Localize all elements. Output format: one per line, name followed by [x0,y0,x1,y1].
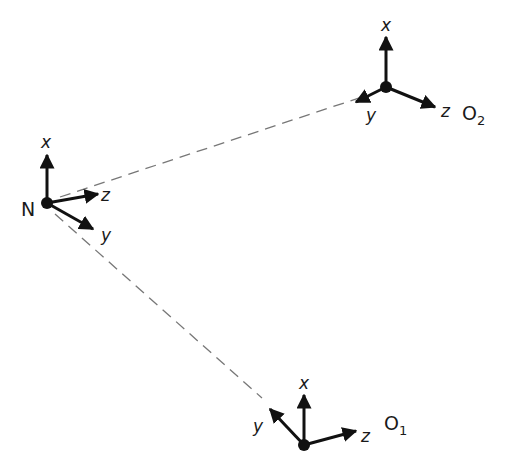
frame-n: x z y N [21,132,112,245]
o2-y-label: y [365,105,377,125]
o2-z-label: z [440,101,451,121]
dashed-line-n-to-o1 [55,214,262,398]
dashed-line-n-to-o2 [60,97,362,197]
n-y-label: y [100,225,112,245]
o1-origin-dot [298,439,310,451]
diagram-svg: x z y N x z y O2 x z y O1 [0,0,506,468]
o1-y-axis-arrow [270,409,304,445]
n-z-label: z [100,185,111,205]
o1-x-label: x [298,373,310,393]
frame-o2: x z y O2 [356,15,485,128]
n-y-axis-arrow [47,203,93,229]
n-origin-dot [41,197,53,209]
o1-y-label: y [252,416,264,436]
o2-origin-dot [380,81,392,93]
o2-x-label: x [380,15,392,35]
o2-frame-label: O2 [462,102,485,128]
n-z-axis-arrow [47,194,98,203]
o1-z-label: z [360,426,371,446]
n-frame-label: N [21,198,35,220]
n-x-label: x [40,132,52,152]
o2-z-axis-arrow [386,87,435,107]
frame-o1: x z y O1 [252,373,407,451]
o1-z-axis-arrow [304,431,356,445]
o1-frame-label: O1 [384,412,407,438]
diagram-canvas: x z y N x z y O2 x z y O1 [0,0,506,468]
